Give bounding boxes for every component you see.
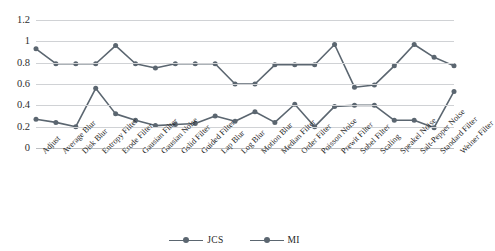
data-point	[452, 63, 457, 68]
data-point	[392, 63, 397, 68]
data-point	[113, 43, 118, 48]
y-tick-label: 0.4	[17, 100, 30, 111]
data-point	[34, 46, 39, 51]
gridline-0.4	[36, 105, 454, 106]
series-line-mi	[36, 88, 454, 127]
data-point	[332, 42, 337, 47]
y-tick-label: 1.2	[17, 15, 30, 26]
legend-item-jcs[interactable]: JCS	[169, 235, 223, 245]
data-point	[272, 120, 277, 125]
gridline-1	[36, 41, 454, 42]
data-point	[352, 85, 357, 90]
y-axis: 00.20.40.60.811.2	[0, 20, 32, 148]
data-point	[34, 117, 39, 122]
data-point	[93, 86, 98, 91]
series-line-jcs	[36, 45, 454, 88]
legend-dot	[264, 237, 270, 243]
x-axis-labels: AdjustAverage BlurDisk BlurEntropy Filte…	[36, 150, 454, 222]
data-point	[412, 42, 417, 47]
y-tick-label: 1	[25, 36, 30, 47]
y-tick-label: 0.8	[17, 57, 30, 68]
data-point	[213, 114, 218, 119]
y-tick-label: 0.2	[17, 121, 30, 132]
gridline-0.6	[36, 84, 454, 85]
gridline-1.2	[36, 20, 454, 21]
chart-legend: JCSMI	[0, 235, 469, 245]
data-point	[252, 109, 257, 114]
gridline-0.8	[36, 63, 454, 64]
legend-dot	[183, 237, 189, 243]
data-point	[412, 118, 417, 123]
legend-label: JCS	[207, 235, 223, 245]
y-tick-label: 0.6	[17, 79, 30, 90]
y-tick-label: 0	[25, 143, 30, 154]
data-point	[153, 66, 158, 71]
data-point	[113, 111, 118, 116]
legend-label: MI	[288, 235, 300, 245]
legend-item-mi[interactable]: MI	[250, 235, 300, 245]
data-point	[53, 120, 58, 125]
legend-marker-icon	[250, 235, 284, 245]
data-point	[452, 89, 457, 94]
legend-marker-icon	[169, 235, 203, 245]
data-point	[432, 55, 437, 60]
data-point	[392, 118, 397, 123]
